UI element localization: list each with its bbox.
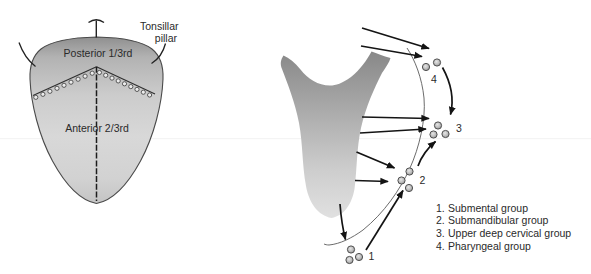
lymph-node — [405, 184, 412, 191]
papilla-circle — [141, 90, 145, 94]
papilla-circle — [48, 89, 52, 93]
lymph-node — [346, 256, 353, 263]
anterior-two-thirds-label: Anterior 2/3rd — [65, 122, 129, 134]
legend-label: Upper deep cervical group — [448, 227, 571, 239]
papilla-circle — [69, 80, 73, 84]
lymph-node — [422, 63, 429, 70]
papilla-circle — [83, 74, 87, 78]
lymph-node — [406, 168, 413, 175]
legend-item-submandibular: 2. Submandibular group — [436, 214, 549, 226]
drainage-arrow-lower-2 — [355, 181, 388, 182]
legend-item-submental: 1. Submental group — [436, 202, 528, 214]
legend-number: 4. — [436, 240, 445, 252]
group-marker-submandibular: 2 — [420, 174, 426, 186]
papilla-circle — [34, 95, 38, 99]
legend-number: 3. — [436, 227, 445, 239]
legend-item-upper-deep-cervical: 3. Upper deep cervical group — [436, 227, 571, 239]
lymph-node — [442, 130, 449, 137]
legend-label: Submental group — [448, 202, 528, 214]
lymph-node — [398, 177, 405, 184]
group-marker-submental: 1 — [369, 250, 375, 262]
papilla-circle — [76, 77, 80, 81]
papilla-circle — [90, 71, 94, 75]
lymph-node — [355, 253, 362, 260]
legend-label: Pharyngeal group — [448, 240, 531, 252]
papilla-circle — [129, 85, 133, 89]
tongue-lymphatic-drainage-figure: Posterior 1/3rd Anterior 2/3rd Tonsillar… — [0, 0, 591, 274]
tonsillar-pillar-label-line2: pillar — [155, 32, 178, 44]
lymph-node — [434, 122, 441, 129]
papilla-circle — [110, 76, 114, 80]
legend-item-pharyngeal: 4. Pharyngeal group — [436, 240, 531, 252]
group-marker-upper-deep-cervical: 3 — [456, 122, 462, 134]
lymph-node — [347, 246, 354, 253]
papilla-circle — [148, 93, 152, 97]
legend-label: Submandibular group — [448, 214, 549, 226]
tonsillar-pillar-label-line1: Tonsillar — [140, 20, 179, 32]
legend-number: 1. — [436, 202, 445, 214]
papilla-circle — [97, 70, 101, 74]
papilla-circle — [41, 92, 45, 96]
figure: Posterior 1/3rd Anterior 2/3rd Tonsillar… — [0, 0, 591, 274]
papilla-circle — [55, 86, 59, 90]
group-marker-pharyngeal: 4 — [431, 73, 437, 85]
papilla-circle — [116, 79, 120, 83]
papilla-circle — [62, 83, 66, 87]
papilla-circle — [135, 87, 139, 91]
lymph-node — [433, 59, 440, 66]
papilla-circle — [122, 82, 126, 86]
lymph-node — [430, 131, 437, 138]
posterior-third-label: Posterior 1/3rd — [64, 47, 133, 59]
papilla-circle — [104, 73, 108, 77]
legend-number: 2. — [436, 214, 445, 226]
